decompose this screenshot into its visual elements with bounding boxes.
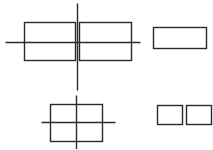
rectangle (158, 106, 183, 125)
rectangle (25, 23, 76, 61)
rectangle (80, 23, 132, 61)
single-rectangle (154, 28, 207, 49)
diagram-canvas (0, 0, 213, 149)
box-with-crosshair (42, 96, 116, 150)
two-small-squares (158, 106, 212, 125)
rectangle (154, 28, 207, 49)
split-box-with-crosshair (6, 4, 141, 91)
rectangle (187, 106, 212, 125)
